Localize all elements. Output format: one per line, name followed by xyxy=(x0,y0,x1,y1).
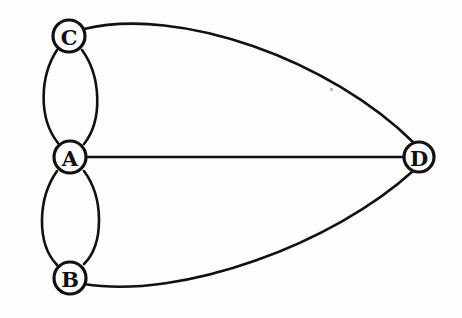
diagram-canvas: Undirected multigraph with four vertices… xyxy=(0,0,462,318)
edge-c-a-right[interactable] xyxy=(82,50,97,144)
scan-speck-artifact xyxy=(330,88,333,91)
graph-svg: Undirected multigraph with four vertices… xyxy=(0,0,462,318)
edge-a-b-left[interactable] xyxy=(42,171,57,265)
edges-layer xyxy=(42,24,414,287)
edge-b-d[interactable] xyxy=(84,171,413,287)
edge-a-b-right[interactable] xyxy=(84,171,99,264)
node-b-circle[interactable] xyxy=(54,262,86,294)
node-c[interactable]: C xyxy=(53,20,85,52)
edge-c-d[interactable] xyxy=(84,24,414,143)
node-a[interactable]: A xyxy=(54,141,86,173)
node-a-circle[interactable] xyxy=(54,141,86,173)
node-d[interactable]: D xyxy=(404,142,434,172)
edge-c-a-left[interactable] xyxy=(44,50,58,143)
node-d-circle[interactable] xyxy=(404,142,434,172)
node-b[interactable]: B xyxy=(54,262,86,294)
node-c-circle[interactable] xyxy=(53,20,85,52)
